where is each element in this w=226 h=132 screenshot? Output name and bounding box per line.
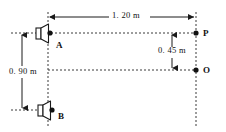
dimension-label-1-20m: 1. 20 m xyxy=(112,11,140,20)
point-marker-a xyxy=(47,30,52,35)
point-label-o: O xyxy=(203,66,210,75)
speaker-icon-b xyxy=(38,101,51,120)
dimension-label-0-90m: 0. 90 m xyxy=(9,67,37,76)
speaker-interference-diagram: 1. 20 m 0. 45 m 0. 90 m A B P O xyxy=(0,0,226,132)
speaker-icon-a xyxy=(36,24,49,43)
point-label-a: A xyxy=(56,41,63,50)
point-label-b: B xyxy=(58,112,64,121)
dimension-label-0-45m: 0. 45 m xyxy=(158,46,186,55)
point-label-p: P xyxy=(203,29,209,38)
point-marker-p xyxy=(193,30,198,35)
point-marker-o xyxy=(193,67,198,72)
point-marker-b xyxy=(49,107,54,112)
